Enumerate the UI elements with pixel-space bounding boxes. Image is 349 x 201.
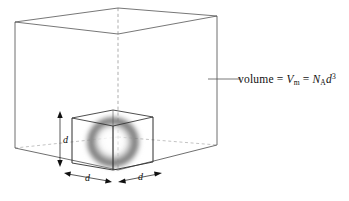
dimension-width-left-arrow-end bbox=[105, 178, 112, 183]
outer-cube-top-face bbox=[15, 8, 217, 34]
dimension-height-arrow-top bbox=[57, 111, 62, 118]
dimension-width-right-arrow-start bbox=[118, 178, 126, 183]
atom-core-glow bbox=[95, 124, 129, 156]
dimension-width-left-line bbox=[68, 174, 108, 181]
dimension-width-right-line bbox=[122, 174, 158, 181]
molar-volume-figure bbox=[0, 0, 349, 201]
dimension-width-right-arrow-end bbox=[154, 171, 162, 176]
dimension-height-arrow-bottom bbox=[57, 160, 62, 167]
dimension-width-left-arrow-start bbox=[64, 172, 71, 177]
